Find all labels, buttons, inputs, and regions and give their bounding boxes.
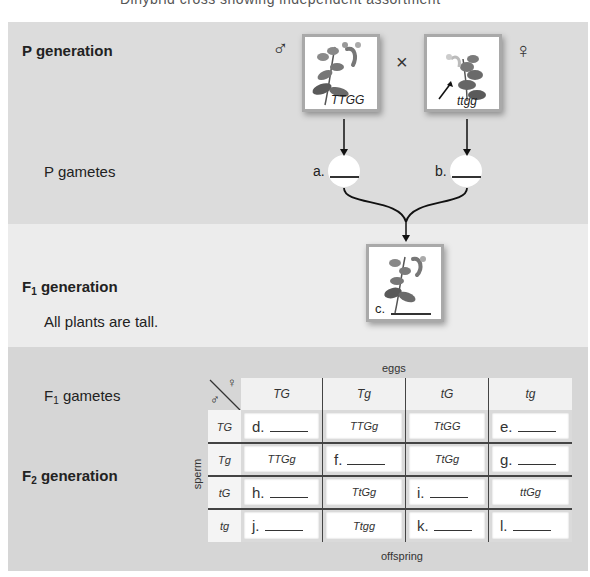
caption-fragment: Dihybrid cross showing independent assor… [120, 0, 441, 7]
f1-note: All plants are tall. [44, 313, 158, 330]
punnett-cell: TtGg [323, 476, 406, 509]
sperm-header-4: tg [208, 509, 241, 542]
f1-genotype-c-label: c. [375, 301, 385, 316]
punnett-cell: TtGG [406, 410, 489, 443]
egg-header-4: tg [489, 378, 572, 410]
gamete-b-label: b. [435, 163, 447, 179]
male-symbol-icon: ♂ [210, 392, 220, 407]
grid-divider [208, 442, 572, 444]
p-gametes-label: P gametes [44, 163, 115, 180]
sperm-label: sperm [191, 459, 203, 490]
egg-header-2: Tg [323, 378, 406, 410]
punnett-cell-e[interactable]: e. [489, 410, 572, 443]
gamete-a-circle [328, 155, 360, 187]
p-generation-title: P generation [22, 42, 113, 59]
grid-divider [208, 475, 572, 477]
female-parent-plant: ttgg [424, 34, 502, 112]
female-symbol-icon: ♀ [227, 375, 237, 390]
gamete-b-circle [450, 155, 482, 187]
punnett-cell-g[interactable]: g. [489, 443, 572, 476]
punnett-cell-d[interactable]: d. [241, 410, 323, 443]
female-genotype: ttgg [457, 94, 477, 108]
punnett-cell-i[interactable]: i. [406, 476, 489, 509]
punnett-cell: ttGg [489, 476, 572, 509]
egg-header-1: TG [241, 378, 323, 410]
male-symbol-icon: ♂ [272, 38, 289, 60]
f1-genotype-blank[interactable] [391, 313, 431, 315]
male-genotype: TTGG [331, 93, 364, 107]
sperm-header-1: TG [208, 410, 241, 443]
gamete-a-label: a. [313, 163, 325, 179]
punnett-corner: ♀ ♂ [208, 378, 241, 410]
punnett-cell-f[interactable]: f. [323, 443, 406, 476]
f2-generation-title: F2 generation [22, 467, 118, 484]
punnett-cell-l[interactable]: l. [489, 509, 572, 542]
egg-header-3: tG [406, 378, 489, 410]
punnett-cell: TTGg [323, 410, 406, 443]
female-symbol-icon: ♀ [515, 40, 532, 62]
sperm-header-2: Tg [208, 443, 241, 476]
cross-symbol-icon: × [396, 52, 408, 72]
f1-generation-title: F1 generation [22, 278, 118, 295]
f1-gametes-label: F1 gametes [44, 387, 120, 404]
f1-plant: c. [366, 244, 444, 322]
punnett-cell-h[interactable]: h. [241, 476, 323, 509]
offspring-label: offspring [381, 550, 423, 562]
gamete-a-blank[interactable] [330, 176, 359, 178]
grid-divider [208, 508, 572, 510]
cropped-caption: Dihybrid cross showing independent assor… [0, 0, 590, 20]
gamete-b-blank[interactable] [452, 176, 481, 178]
sperm-header-3: tG [208, 476, 241, 509]
punnett-cell-k[interactable]: k. [406, 509, 489, 542]
male-parent-plant: TTGG [302, 34, 380, 112]
punnett-cell-j[interactable]: j. [241, 509, 323, 542]
eggs-label: eggs [382, 362, 406, 374]
punnett-cell: TtGg [406, 443, 489, 476]
punnett-cell: TTGg [241, 443, 323, 476]
punnett-cell: Ttgg [323, 509, 406, 542]
